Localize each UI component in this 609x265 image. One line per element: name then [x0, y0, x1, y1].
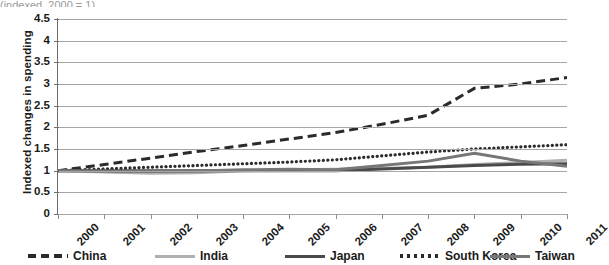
legend-label: India	[200, 249, 228, 263]
y-tick-label: 0	[4, 208, 50, 219]
y-tick-label: 2	[4, 121, 50, 132]
legend-item-taiwan[interactable]: Taiwan	[490, 246, 575, 265]
x-tick	[197, 214, 198, 219]
gridline	[58, 127, 567, 128]
y-tick-label: 0.5	[4, 186, 50, 197]
legend-swatch-dotted-icon	[400, 250, 440, 262]
x-tick-label: 2004	[260, 221, 287, 248]
x-tick-label: 2010	[537, 221, 564, 248]
gridline	[58, 192, 567, 193]
y-tick-label: 4.5	[4, 13, 50, 24]
gridline	[58, 214, 567, 215]
gridline	[58, 106, 567, 107]
x-tick-label: 2000	[74, 221, 101, 248]
y-tick	[54, 41, 59, 42]
x-tick	[58, 214, 59, 219]
y-tick	[54, 149, 59, 150]
y-tick	[54, 106, 59, 107]
legend-label: China	[73, 249, 106, 263]
x-tick-label: 2006	[352, 221, 379, 248]
x-tick-label: 2002	[167, 221, 194, 248]
y-tick	[54, 84, 59, 85]
legend-line-sample	[285, 255, 325, 258]
legend-swatch-dashed-icon	[28, 250, 68, 262]
legend-item-china[interactable]: China	[28, 246, 106, 265]
y-tick-label: 3.5	[4, 56, 50, 67]
x-tick-label: 2005	[306, 221, 333, 248]
legend-line-sample	[155, 255, 195, 258]
x-tick	[428, 214, 429, 219]
legend-item-india[interactable]: India	[155, 246, 228, 265]
legend-line-sample	[28, 254, 68, 258]
y-tick-label: 2.5	[4, 100, 50, 111]
gridline	[58, 171, 567, 172]
x-tick	[521, 214, 522, 219]
gridline	[58, 19, 567, 20]
x-tick	[289, 214, 290, 219]
y-tick	[54, 192, 59, 193]
x-tick	[382, 214, 383, 219]
y-tick-label: 4	[4, 35, 50, 46]
x-tick	[336, 214, 337, 219]
gridline	[58, 84, 567, 85]
x-tick	[474, 214, 475, 219]
y-tick	[54, 127, 59, 128]
legend-line-sample	[490, 255, 530, 258]
series-layer	[58, 19, 567, 214]
x-tick-label: 2009	[491, 221, 518, 248]
legend-swatch-solid-icon	[490, 250, 530, 262]
gridline	[58, 149, 567, 150]
y-tick-label: 1	[4, 165, 50, 176]
plot-area	[58, 19, 567, 214]
chart-title-clipped: (indexed, 2000 = 1)	[0, 0, 588, 7]
y-tick-label: 1.5	[4, 143, 50, 154]
x-tick-label: 2011	[583, 221, 609, 247]
x-tick-label: 2008	[445, 221, 472, 248]
y-tick	[54, 19, 59, 20]
x-tick-label: 2001	[121, 221, 148, 248]
x-tick	[151, 214, 152, 219]
gridline	[58, 41, 567, 42]
legend-item-japan[interactable]: Japan	[285, 246, 365, 265]
chart-legend: ChinaIndiaJapanSouth KoreaTaiwan	[0, 246, 588, 265]
y-tick-label: 3	[4, 78, 50, 89]
legend-swatch-solid-icon	[155, 250, 195, 262]
legend-label: Japan	[330, 249, 365, 263]
legend-label: Taiwan	[535, 249, 575, 263]
gridline	[58, 62, 567, 63]
legend-swatch-solid-icon	[285, 250, 325, 262]
x-tick	[104, 214, 105, 219]
x-tick-label: 2007	[398, 221, 425, 248]
y-tick	[54, 171, 59, 172]
y-tick	[54, 62, 59, 63]
x-tick	[243, 214, 244, 219]
legend-line-sample	[400, 254, 440, 258]
x-tick	[567, 214, 568, 219]
x-tick-label: 2003	[213, 221, 240, 248]
